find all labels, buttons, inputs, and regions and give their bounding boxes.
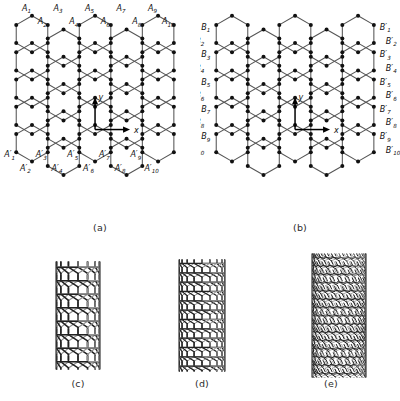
label-top-4: A4 [68,17,78,27]
caption-d: (d) [138,378,266,389]
label-bottom-7: A′7 [98,150,110,160]
label-left-2: B2 [200,37,205,47]
label-top-5: A5 [84,4,94,14]
vertex-group [214,14,376,177]
tube-mesh [312,248,368,388]
label-right-9: B′9 [380,132,391,142]
label-right-2: B′2 [386,37,397,47]
tube-mesh [57,248,100,387]
label-bottom-10: A′10 [143,164,159,174]
y-axis-label: y [298,93,304,102]
label-top-10: A10 [161,17,175,27]
label-left-6: B6 [200,91,205,101]
label-top-2: A2 [37,17,47,27]
label-bottom-4: A′4 [51,164,63,174]
label-right-10: B′10 [386,146,400,156]
figure-root: yxA1A2A3A4A5A6A7A8A9A10A′1A′2A′3A′4A′5A′… [0,0,400,401]
label-top-8: A8 [131,17,141,27]
label-right-4: B′4 [386,64,397,74]
caption-c: (c) [14,378,142,389]
x-axis-label: x [333,126,339,135]
lattice-svg-b: yxB1B2B3B4B5B6B7B8B9B10B′1B′2B′3B′4B′5B′… [200,0,400,245]
label-right-3: B′3 [380,50,391,60]
label-bottom-9: A′9 [129,150,141,160]
label-left-7: B7 [201,105,211,115]
label-bottom-2: A′2 [19,164,31,174]
label-right-1: B′1 [380,23,391,33]
label-left-1: B1 [201,23,210,33]
label-right-7: B′7 [380,105,391,115]
tube-mesh [179,250,224,383]
panel-a-lattice: yxA1A2A3A4A5A6A7A8A9A10A′1A′2A′3A′4A′5A′… [0,0,200,245]
y-axis-label: y [98,93,104,102]
label-top-6: A6 [100,17,110,27]
label-top-1: A1 [21,4,31,14]
x-axis-label: x [133,126,139,135]
label-right-5: B′5 [380,78,391,88]
label-right-8: B′8 [386,118,397,128]
label-left-8: B8 [200,118,205,128]
caption-e: (e) [262,378,400,389]
label-left-4: B4 [200,64,205,74]
label-bottom-5: A′5 [66,150,78,160]
label-left-10: B10 [200,146,205,156]
x-axis-arrowhead [123,126,130,132]
label-left-5: B5 [201,78,211,88]
caption-a: (a) [0,222,200,233]
label-bottom-3: A′3 [35,150,47,160]
bond-group [216,16,374,175]
label-top-9: A9 [147,4,157,14]
label-right-6: B′6 [386,91,397,101]
label-bottom-8: A′8 [114,164,126,174]
label-left-9: B9 [201,132,211,142]
label-left-3: B3 [201,50,211,60]
caption-b: (b) [200,222,400,233]
label-bottom-6: A′6 [82,164,94,174]
label-top-3: A3 [52,4,62,14]
label-top-7: A7 [116,4,126,14]
label-bottom-1: A′1 [3,150,15,160]
lattice-svg-a: yxA1A2A3A4A5A6A7A8A9A10A′1A′2A′3A′4A′5A′… [0,0,200,245]
panel-b-lattice: yxB1B2B3B4B5B6B7B8B9B10B′1B′2B′3B′4B′5B′… [200,0,400,245]
x-axis-arrowhead [323,126,330,132]
